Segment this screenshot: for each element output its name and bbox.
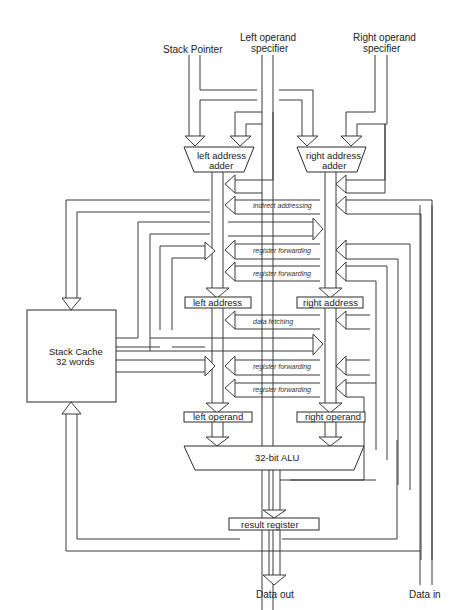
data-fetching-label: data fetching [253,316,293,327]
left-operand-specifier-label-1: Left operand [240,32,296,43]
right-address-adder-label-2: adder [322,160,346,171]
stack-pointer-label: Stack Pointer [163,44,222,55]
right-operand-label: right operand [305,411,361,422]
right-operand-specifier-bus [346,55,387,137]
register-forwarding-label-2: register forwarding [253,268,311,279]
right-address-label: right address [303,297,358,308]
right-operand-specifier-label-2: specifier [363,43,400,54]
left-operand-label: left operand [193,411,243,422]
stack-cache-label-2: 32 words [56,356,95,367]
right-address-bus [319,172,342,446]
data-fetching-path [225,311,370,329]
indirect-addressing-label: indirect addressing [253,200,312,211]
register-forwarding-label-1: register forwarding [253,245,311,256]
left-address-adder-label-2: adder [209,160,233,171]
register-forwarding-label-3: register forwarding [253,361,311,372]
register-forwarding-label-4: register forwarding [253,384,311,395]
data-in-label: Data in [409,589,441,600]
left-address-label: left address [193,297,242,308]
left-address-bus [206,172,229,446]
data-out-label: Data out [256,589,294,600]
left-operand-specifier-label-2: specifier [251,43,288,54]
stack-pointer-bus [189,55,257,137]
alu-label: 32-bit ALU [255,452,299,463]
result-register-label: result register [241,519,299,530]
right-operand-specifier-label-1: Right operand [353,32,416,43]
cpu-datapath-diagram: Stack Pointer Left operand specifier Rig… [0,0,458,610]
